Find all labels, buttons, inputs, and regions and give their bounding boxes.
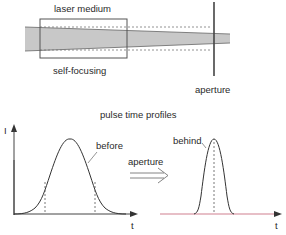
transform-arrow-icon <box>130 168 168 183</box>
x-axis-left-label: t <box>131 221 134 231</box>
x-axis-left-arrow-icon <box>130 211 138 217</box>
pulse-profiles-title: pulse time profiles <box>100 110 177 120</box>
arrow-aperture-label: aperture <box>128 157 163 167</box>
laser-medium-label: laser medium <box>54 4 111 14</box>
y-axis-label: I <box>4 126 7 136</box>
behind-label: behind <box>173 136 202 146</box>
x-axis-right-arrow-icon <box>274 211 282 217</box>
aperture-label: aperture <box>195 85 230 95</box>
before-label: before <box>96 141 123 151</box>
self-focusing-label: self-focusing <box>53 66 106 76</box>
x-axis-right-label: t <box>275 221 278 231</box>
